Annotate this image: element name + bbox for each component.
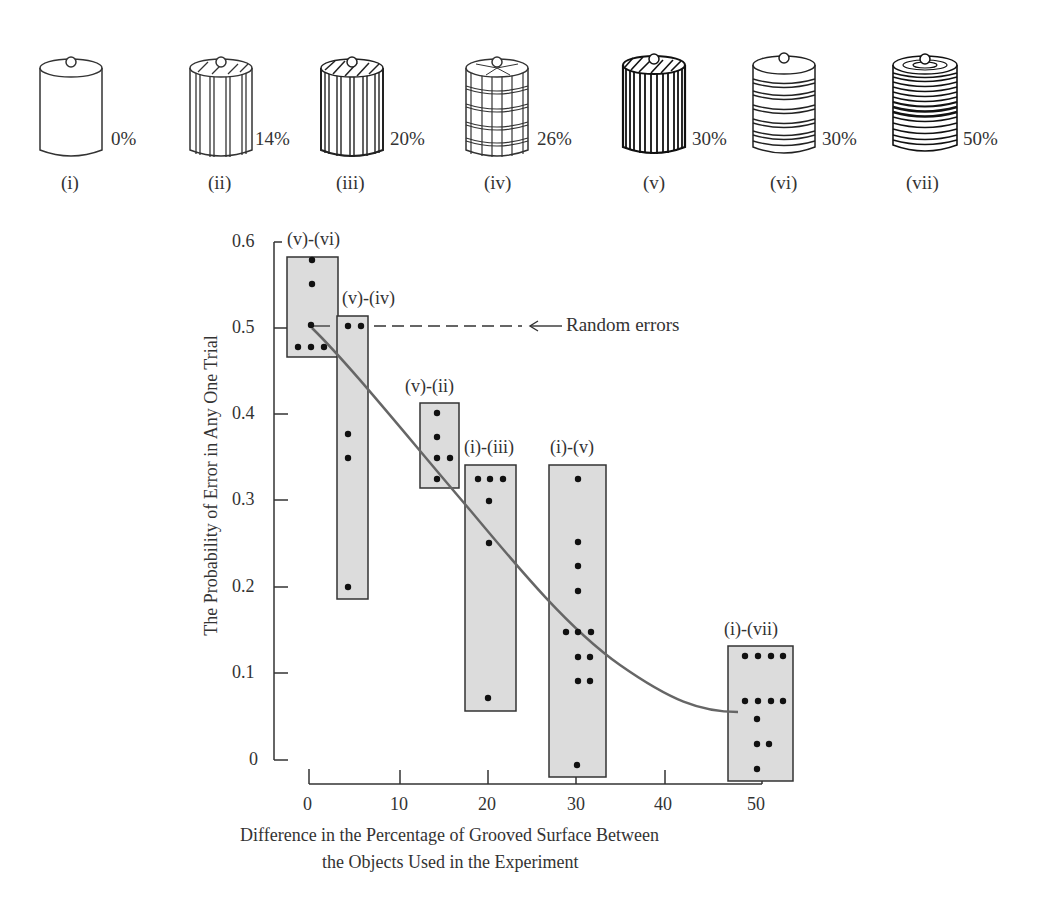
y-axis-title: The Probability of Error in Any One Tria…	[201, 296, 222, 676]
x-tick-label: 20	[478, 794, 496, 815]
y-tick-label: 0.4	[232, 403, 255, 424]
y-tick-label: 0.6	[232, 231, 255, 252]
y-tick-label: 0.1	[232, 662, 255, 683]
group-label-v-iv: (v)-(iv)	[342, 288, 395, 309]
y-tick-label: 0.5	[232, 317, 255, 338]
random-errors-annotation: Random errors	[566, 314, 679, 336]
x-tick-label: 10	[390, 794, 408, 815]
x-tick-label: 0	[303, 794, 312, 815]
y-tick-label: 0.2	[232, 576, 255, 597]
y-tick-label: 0	[249, 749, 258, 770]
group-label-i-iii: (i)-(iii)	[464, 437, 514, 458]
x-tick-label: 30	[567, 794, 585, 815]
x-axis-title-line2: the Objects Used in the Experiment	[322, 852, 578, 873]
y-tick-label: 0.3	[232, 489, 255, 510]
x-tick-label: 50	[747, 794, 765, 815]
group-box-i-vii	[728, 646, 793, 781]
group-label-v-ii: (v)-(ii)	[405, 376, 454, 397]
x-axis	[309, 769, 762, 784]
group-box-i-v	[549, 465, 606, 777]
arrow-left-icon	[530, 321, 562, 331]
x-tick-label: 40	[654, 794, 672, 815]
trend-curve	[312, 328, 738, 712]
group-label-v-vi: (v)-(vi)	[287, 229, 340, 250]
y-axis	[274, 242, 288, 760]
error-probability-chart	[0, 0, 1051, 908]
group-label-i-vii: (i)-(vii)	[724, 619, 778, 640]
x-axis-title-line1: Difference in the Percentage of Grooved …	[240, 825, 659, 846]
group-box-v-vi	[287, 257, 338, 357]
group-label-i-v: (i)-(v)	[550, 437, 594, 458]
